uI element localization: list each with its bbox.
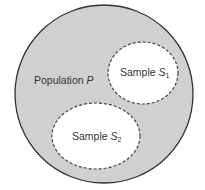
- population-label: Population P: [34, 74, 94, 86]
- sample-s2-label: Sample S2: [72, 130, 121, 143]
- population-symbol: P: [87, 74, 94, 86]
- sample-s1-label-text: Sample: [120, 66, 156, 78]
- sample-s2-subscript: 2: [118, 136, 122, 143]
- sample-s1-symbol: S: [159, 66, 166, 78]
- venn-diagram: [0, 0, 205, 190]
- sample-s1-subscript: 1: [166, 72, 170, 79]
- population-label-text: Population: [34, 74, 84, 86]
- sample-s1-label: Sample S1: [120, 66, 169, 79]
- sample-s2-label-text: Sample: [72, 130, 108, 142]
- sample-s2-symbol: S: [111, 130, 118, 142]
